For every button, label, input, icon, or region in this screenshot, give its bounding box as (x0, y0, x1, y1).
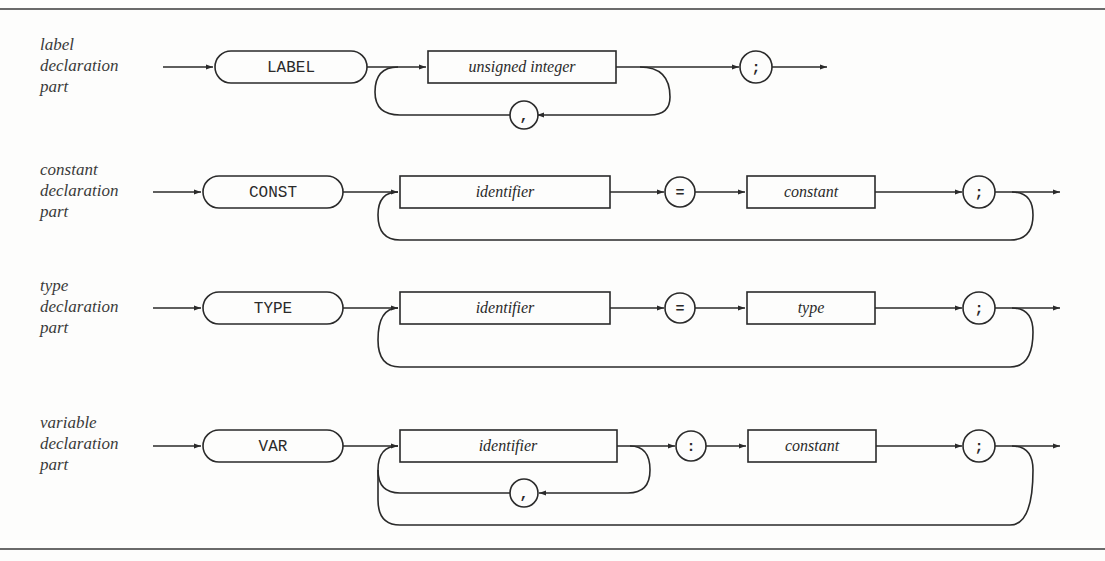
row-label: label declaration part (39, 35, 123, 96)
terminal-text: ; (974, 301, 983, 318)
row-variable-declaration: variable declaration part VAR identifier… (39, 413, 1060, 525)
nonterminal-text: identifier (476, 183, 535, 201)
keyword-text: CONST (249, 184, 297, 202)
terminal-text: , (519, 108, 528, 125)
nonterminal-text: identifier (479, 437, 538, 455)
nonterminal-text: type (798, 299, 825, 317)
nonterminal-text: identifier (476, 299, 535, 317)
terminal-text: = (675, 185, 684, 202)
terminal-text: : (686, 439, 695, 456)
row-label: type declaration part (39, 276, 123, 337)
nonterminal-text: constant (785, 437, 840, 454)
terminal-text: , (519, 486, 528, 503)
nonterminal-text: constant (784, 183, 839, 200)
row-constant-declaration: constant declaration part CONST identifi… (39, 160, 1060, 240)
syntax-diagram: label declaration part LABEL unsigned in… (0, 0, 1105, 561)
terminal-text: ; (974, 439, 983, 456)
terminal-text: = (675, 301, 684, 318)
terminal-text: ; (751, 60, 760, 77)
keyword-text: TYPE (254, 300, 292, 318)
row-label-declaration: label declaration part LABEL unsigned in… (39, 35, 827, 129)
keyword-text: VAR (259, 438, 288, 456)
row-label: variable declaration part (39, 413, 123, 474)
nonterminal-text: unsigned integer (468, 58, 576, 76)
row-label: constant declaration part (39, 160, 123, 221)
row-type-declaration: type declaration part TYPE identifier = … (39, 276, 1060, 367)
terminal-text: ; (974, 185, 983, 202)
keyword-text: LABEL (267, 59, 315, 77)
